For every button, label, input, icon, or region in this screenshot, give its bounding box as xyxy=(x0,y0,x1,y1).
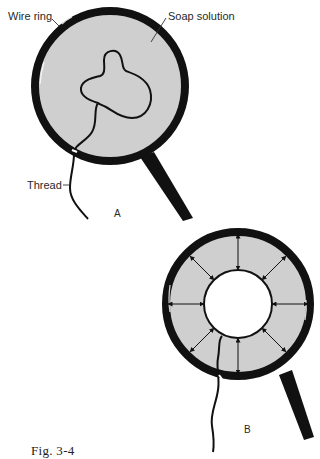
panel-b-label: B xyxy=(244,425,251,435)
thread-circle-b xyxy=(204,270,272,338)
handle-a xyxy=(140,152,193,221)
panel-b xyxy=(166,232,314,452)
panel-a-label: A xyxy=(114,209,121,219)
figure: Wire ring Soap solution Thread A B Fig. … xyxy=(0,0,320,459)
figure-caption: Fig. 3-4 xyxy=(31,444,75,457)
soap-solution-label: Soap solution xyxy=(168,11,235,22)
wire-ring-a xyxy=(35,11,185,161)
handle-b xyxy=(279,370,314,440)
thread-label: Thread xyxy=(27,180,62,191)
wire-ring-label: Wire ring xyxy=(8,11,52,22)
